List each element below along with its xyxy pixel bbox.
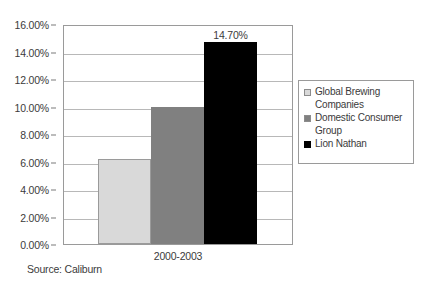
y-tick-label-5: 10.00% [15,102,49,114]
legend-label-domestic-consumer-group: Domestic Consumer Group [315,112,409,137]
y-tick-mark-7 [51,52,56,53]
y-tick-label-7: 14.00% [15,47,49,59]
source-note: Source: Caliburn [27,263,102,275]
legend-swatch-icon-lion-nathan [304,141,311,148]
y-tick-mark-1 [51,217,56,218]
legend-swatch-icon-global-brewing-companies [304,89,311,96]
y-tick-mark-4 [51,135,56,136]
y-tick-label-4: 8.00% [20,129,49,141]
legend-label-lion-nathan: Lion Nathan [315,138,367,151]
y-axis: 0.00% 2.00% 4.00% 6.00% 8.00% 10.00% 12.… [0,25,57,245]
y-tick-mark-3 [51,162,56,163]
y-tick-label-0: 0.00% [20,239,49,251]
legend-item-global-brewing-companies[interactable]: Global Brewing Companies [304,86,409,111]
bar-chart: 0.00% 2.00% 4.00% 6.00% 8.00% 10.00% 12.… [0,0,435,294]
y-tick-mark-2 [51,190,56,191]
bar-domestic-consumer-group[interactable] [151,107,204,245]
y-tick-label-2: 4.00% [20,184,49,196]
x-axis-category-label: 2000-2003 [63,250,293,262]
bar-value-label-lion-nathan: 14.70% [213,29,247,41]
y-tick-mark-5 [51,107,56,108]
y-tick-label-6: 12.00% [15,74,49,86]
legend-item-lion-nathan[interactable]: Lion Nathan [304,138,409,151]
legend-item-domestic-consumer-group[interactable]: Domestic Consumer Group [304,112,409,137]
y-tick-label-3: 6.00% [20,157,49,169]
legend: Global Brewing Companies Domestic Consum… [298,80,414,164]
legend-swatch-icon-domestic-consumer-group [304,115,311,122]
y-tick-mark-8 [51,25,56,26]
bar-lion-nathan[interactable] [204,42,257,244]
y-tick-mark-0 [51,245,56,246]
bars-layer: 14.70% [64,26,292,244]
legend-label-global-brewing-companies: Global Brewing Companies [315,86,409,111]
y-tick-mark-6 [51,80,56,81]
plot-area: 14.70% [63,25,293,245]
y-tick-label-1: 2.00% [20,212,49,224]
y-tick-label-8: 16.00% [15,19,49,31]
bar-global-brewing-companies[interactable] [98,159,151,244]
